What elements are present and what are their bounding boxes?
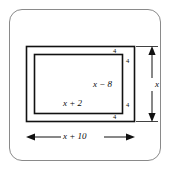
geometry-figure: 4 4 4 4 x − 8 x + 2 x + 10 x: [0, 0, 172, 173]
border-width-label-right-upper: 4: [126, 58, 129, 65]
inner-width-label: x + 2: [63, 99, 82, 108]
horizontal-dimension-label: x + 10: [63, 132, 87, 141]
border-width-label-bottom: 4: [113, 114, 116, 121]
rectangle-diagram: [0, 0, 172, 173]
border-width-label-right-lower: 4: [126, 102, 129, 109]
vertical-dimension-label: x: [155, 80, 159, 89]
inner-height-label: x − 8: [93, 80, 112, 89]
border-width-label-top: 4: [113, 48, 116, 55]
